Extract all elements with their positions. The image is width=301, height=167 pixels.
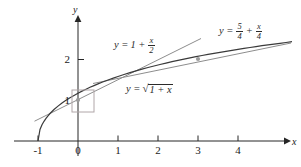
tangent-at-3-denominator-1: 4 [236,31,242,41]
equation-label-sqrt-curve: y = √ 1 + x [126,83,173,95]
y-tick-label-1: 1 [54,94,70,106]
x-tick-label-3: 3 [188,144,208,156]
y-tick-label-2: 2 [54,53,70,65]
tangent-at-0-denominator: 2 [148,45,154,55]
x-tick-label-1: 1 [108,144,128,156]
x-axis-arrow [284,138,291,145]
x-axis-label: x [292,136,296,147]
tangent-at-3-numerator-2: x [256,22,262,31]
equation-label-tangent-at-0: y = 1 + x 2 [114,36,156,54]
tangent-at-3-denominator-2: 4 [256,31,262,41]
point-marker-3-2 [196,57,200,61]
x-tick-marks [38,136,238,142]
y-axis-arrow [75,15,82,22]
tangent-at-3-plus: + [246,26,253,37]
tangent-at-0-lhs: y = [114,40,128,51]
x-tick-label-4: 4 [228,144,248,156]
x-tick-label-2: 2 [148,144,168,156]
tangent-at-0-numerator: x [149,36,155,45]
curve-lhs: y = [126,84,140,95]
equation-label-tangent-at-3: y = 5 4 + x 4 [219,22,263,40]
tangent-at-0-term: 1 + [130,40,145,51]
graph-figure: -1 0 1 2 3 4 1 2 x y y = 1 + x 2 y = 5 4… [0,0,301,167]
y-axis-label: y [73,4,77,15]
point-marker-0-1 [76,98,80,102]
tangent-at-0-fraction: x 2 [148,36,154,54]
x-tick-label--1: -1 [28,144,48,156]
tangent-at-3-fraction-2: x 4 [256,22,262,40]
radical-group: √ 1 + x [142,83,172,95]
tangent-at-3-fraction-1: 5 4 [236,22,242,40]
x-tick-label-0: 0 [68,144,88,156]
tangent-at-3-numerator-1: 5 [236,22,242,31]
tangent-at-3-lhs: y = [219,26,233,37]
radicand: 1 + x [148,84,172,96]
